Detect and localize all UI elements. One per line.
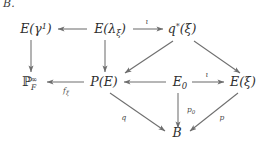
svg-text:P(E): P(E) bbox=[89, 74, 117, 89]
node-B: B bbox=[171, 125, 181, 140]
svg-text:F: F bbox=[30, 83, 37, 92]
edge-label-f-xi: fξ bbox=[62, 86, 70, 97]
edge-label-iota-mid: ι bbox=[206, 70, 209, 79]
edge-label-f-xi-sub: ξ bbox=[66, 90, 70, 97]
edge-q-star-to-PE bbox=[125, 41, 173, 73]
svg-text:E0: E0 bbox=[172, 74, 188, 91]
edge-q-star-to-E-xi bbox=[194, 41, 240, 73]
edge-label-p: p bbox=[220, 113, 225, 122]
edge-label-p0-sub: 0 bbox=[192, 109, 196, 115]
edge-label-q: q bbox=[122, 113, 127, 122]
node-E-0: E0 bbox=[172, 74, 188, 91]
node-P-E: P(E) bbox=[89, 74, 117, 89]
node-q-star-xi: q*(ξ) bbox=[168, 21, 197, 36]
node-E-gamma1-label: E( bbox=[19, 21, 35, 36]
commutative-diagram: E(γ1) E(λξ) q*(ξ) ℙ ∞ F P(E) E0 bbox=[0, 0, 269, 148]
edge-E-xi-to-B bbox=[190, 93, 238, 131]
node-E-gamma1: E(γ1) bbox=[19, 21, 52, 36]
edge-label-p0: p0 bbox=[187, 105, 196, 115]
node-E-xi: E(ξ) bbox=[229, 74, 256, 89]
figure-page: B. E(γ1) E(λξ) q*(ξ) ℙ ∞ F bbox=[0, 0, 269, 148]
node-E-lambda-xi: E(λξ) bbox=[93, 21, 126, 38]
svg-text:E(γ1): E(γ1) bbox=[19, 21, 52, 36]
svg-text:E(ξ): E(ξ) bbox=[229, 74, 256, 89]
svg-text:B: B bbox=[171, 125, 181, 140]
node-P-F-infty: ℙ ∞ F bbox=[22, 74, 37, 92]
svg-text:E(λξ): E(λξ) bbox=[93, 21, 126, 38]
svg-text:q*(ξ): q*(ξ) bbox=[168, 21, 197, 36]
edge-PE-to-B bbox=[110, 93, 165, 131]
edge-label-iota-top: ι bbox=[146, 17, 149, 26]
